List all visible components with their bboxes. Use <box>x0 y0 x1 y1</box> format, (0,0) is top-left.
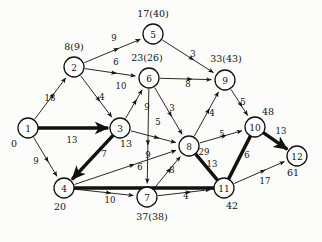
node-label-3: 3 <box>117 124 123 134</box>
node-cost-2: 8(9) <box>64 41 84 52</box>
node-label-9: 9 <box>222 76 228 86</box>
edge-weight-2-6: 6 <box>113 57 118 67</box>
edge-weight-10-11: 6 <box>244 150 249 160</box>
node-cost-11: 42 <box>226 200 238 211</box>
node-cost-7: 37(38) <box>136 211 168 222</box>
edge-7-8 <box>154 157 180 188</box>
edge-midarrow-2-5 <box>114 49 119 51</box>
node-cost-6: 23(26) <box>131 52 163 63</box>
node-label-12: 12 <box>291 152 302 162</box>
edge-weight-6-9: 8 <box>185 79 190 89</box>
node-5[interactable]: 5 <box>143 24 163 44</box>
edge-weight-3-4: 7 <box>101 149 106 159</box>
node-3[interactable]: 3 <box>110 118 130 138</box>
edge-weight-1-3: 13 <box>67 135 78 145</box>
edge-weight-7-11: 4 <box>183 191 188 201</box>
edge-midarrow-3-6 <box>134 100 137 104</box>
node-cost-3: 13 <box>120 138 132 149</box>
edge-midarrow-11-12 <box>260 170 265 172</box>
edge-weight-4-7: 10 <box>105 195 116 205</box>
edge-8-9 <box>195 92 219 136</box>
node-label-6: 6 <box>146 74 152 84</box>
node-label-7: 7 <box>144 193 150 203</box>
extra-label-0: 29 <box>199 147 210 157</box>
node-1[interactable]: 1 <box>18 118 38 138</box>
edge-weight-11-12: 17 <box>260 176 271 186</box>
edge-midarrow-2-6 <box>111 72 116 73</box>
edge-4-8 <box>75 150 176 184</box>
node-4[interactable]: 4 <box>54 178 74 198</box>
node-label-8: 8 <box>186 142 192 152</box>
node-cost-4: 20 <box>54 201 66 212</box>
node-label-1: 1 <box>25 124 31 134</box>
edge-weight-5-9: 3 <box>190 49 195 59</box>
node-label-5: 5 <box>150 30 156 40</box>
node-6[interactable]: 6 <box>139 68 159 88</box>
edge-weight-8-10: 5 <box>219 129 224 139</box>
edge-weight-1-2: 18 <box>45 93 56 103</box>
edge-2-6 <box>85 69 135 76</box>
node-label-4: 4 <box>61 184 67 194</box>
graph-diagram-canvas: 123456789101112 181399641097383569108445… <box>0 0 322 242</box>
edge-weight-3-6: 10 <box>116 81 127 91</box>
node-label-11: 11 <box>218 184 229 194</box>
edge-weight-2-3: 4 <box>99 92 104 102</box>
node-label-10: 10 <box>249 123 261 133</box>
edge-midarrow-4-7 <box>106 193 111 194</box>
edge-weight-9-10: 5 <box>240 97 245 107</box>
edge-weight-6-7: 5 <box>155 117 160 127</box>
edge-midarrow-4-8 <box>129 164 134 166</box>
node-2[interactable]: 2 <box>64 57 84 77</box>
node-7[interactable]: 7 <box>137 187 157 207</box>
edge-5-9 <box>163 40 214 72</box>
node-cost-1: 0 <box>11 138 17 149</box>
edge-weight-1-4: 9 <box>33 156 38 166</box>
edge-weight-3-8: 9 <box>144 102 149 112</box>
edge-weight-10-12: 13 <box>276 126 287 136</box>
edge-2-3 <box>81 76 112 117</box>
edge-weight-7-8: 8 <box>169 165 174 175</box>
graph-svg: 123456789101112 181399641097383569108445… <box>0 0 322 242</box>
node-cost-9: 33(43) <box>210 53 242 64</box>
node-cost-5: 17(40) <box>137 8 169 19</box>
edge-weight-4-11: 9 <box>145 150 150 160</box>
node-10[interactable]: 10 <box>245 117 265 137</box>
edge-3-4 <box>73 136 113 179</box>
node-8[interactable]: 8 <box>179 136 199 156</box>
edge-midarrow-3-8 <box>154 137 159 138</box>
node-cost-10: 48 <box>262 106 274 117</box>
node-11[interactable]: 11 <box>214 178 234 198</box>
node-cost-12: 61 <box>287 167 299 178</box>
edge-weight-8-9: 4 <box>209 108 214 118</box>
node-12[interactable]: 12 <box>287 146 307 166</box>
node-label-2: 2 <box>71 63 77 73</box>
edge-midarrow-1-4 <box>46 157 49 161</box>
edge-weight-4-8: 6 <box>137 162 142 172</box>
edge-weight-8-11: 13 <box>207 159 218 169</box>
edge-3-8 <box>131 131 175 143</box>
edge-weight-2-5: 9 <box>111 33 116 43</box>
node-9[interactable]: 9 <box>215 70 235 90</box>
edge-weight-6-8: 3 <box>169 103 174 113</box>
